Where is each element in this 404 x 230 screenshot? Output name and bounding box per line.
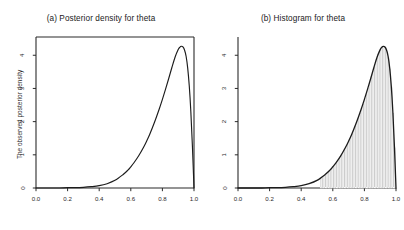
panel-b: (b) Histogram for theta 012340.00.20.40.…: [202, 0, 404, 230]
svg-text:0.0: 0.0: [32, 195, 41, 202]
svg-text:0.2: 0.2: [265, 195, 274, 202]
svg-text:1: 1: [221, 153, 228, 157]
svg-text:0.8: 0.8: [158, 195, 167, 202]
panel-a-plot: 012340.00.20.40.60.81.0: [0, 0, 202, 230]
svg-text:1.0: 1.0: [190, 195, 199, 202]
svg-text:0.0: 0.0: [234, 195, 243, 202]
svg-text:0.6: 0.6: [127, 195, 136, 202]
posterior-density-curve: [36, 46, 194, 188]
svg-text:0.6: 0.6: [329, 195, 338, 202]
svg-text:4: 4: [19, 53, 26, 57]
panel-b-plot: 012340.00.20.40.60.81.0: [202, 0, 404, 230]
svg-text:4: 4: [221, 53, 228, 57]
svg-text:3: 3: [19, 86, 26, 90]
svg-text:0.8: 0.8: [360, 195, 369, 202]
figure-container: (a) Posterior density for theta The obse…: [0, 0, 404, 230]
svg-text:2: 2: [221, 119, 228, 123]
svg-text:0: 0: [19, 186, 26, 190]
svg-text:0.2: 0.2: [63, 195, 72, 202]
panel-a: (a) Posterior density for theta The obse…: [0, 0, 202, 230]
svg-text:0.4: 0.4: [297, 195, 306, 202]
svg-text:0: 0: [221, 186, 228, 190]
svg-text:1.0: 1.0: [392, 195, 401, 202]
svg-text:2: 2: [19, 119, 26, 123]
svg-text:0.4: 0.4: [95, 195, 104, 202]
svg-text:1: 1: [19, 153, 26, 157]
svg-text:3: 3: [221, 86, 228, 90]
